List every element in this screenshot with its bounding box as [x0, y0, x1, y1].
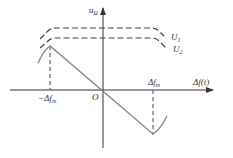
svg-text:−Δfm: −Δfm — [38, 93, 57, 104]
svg-text:Δfm: Δfm — [147, 77, 161, 88]
origin-label: O — [92, 92, 99, 102]
u1-label-sub: 1 — [178, 37, 181, 43]
neg-fm-label-prefix: −Δ — [38, 93, 49, 103]
svg-text:U2: U2 — [173, 44, 183, 55]
u2-label-sub: 2 — [180, 49, 183, 55]
neg-fm-label-sub: m — [52, 98, 57, 104]
u1-threshold-line — [40, 28, 164, 39]
x-axis-label: f(t) — [198, 77, 209, 87]
svg-text:uΩ: uΩ — [89, 5, 99, 16]
svg-text:U1: U1 — [171, 32, 181, 43]
pos-fm-label-sub: m — [156, 82, 161, 88]
y-axis-label-sub: Ω — [94, 10, 99, 16]
discriminator-characteristic-diagram: uΩ U1 U2 Δf(t) Δfm −Δfm O — [0, 0, 233, 158]
svg-text:Δf(t): Δf(t) — [192, 77, 209, 87]
